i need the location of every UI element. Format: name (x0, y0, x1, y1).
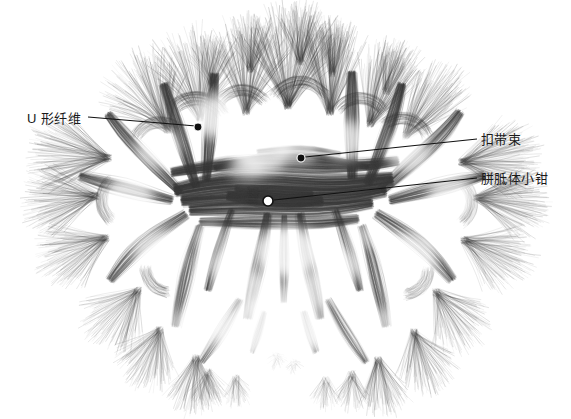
tractography-figure: U 形纤维 扣带束 胼胝体小钳 (0, 0, 571, 419)
annotation-label-u-fiber: U 形纤维 (27, 112, 81, 125)
annotation-label-forceps-minor: 胼胝体小钳 (481, 172, 548, 185)
annotation-label-cingulum: 扣带束 (481, 133, 521, 146)
tractography-image (0, 0, 571, 419)
